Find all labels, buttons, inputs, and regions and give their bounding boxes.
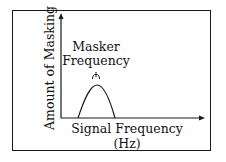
y-axis-arrow-icon — [59, 13, 64, 19]
masker-frequency-tick-icon — [93, 72, 100, 79]
masker-label-line1: Masker — [72, 41, 120, 54]
x-axis-unit: (Hz) — [113, 138, 140, 151]
x-axis — [61, 116, 205, 121]
x-axis-label: Signal Frequency — [71, 123, 183, 136]
y-axis-label: Amount of Masking — [44, 6, 57, 130]
masking-curve — [78, 85, 115, 118]
masker-label-line2: Frequency — [62, 55, 130, 68]
x-axis-arrow-icon — [199, 116, 205, 121]
